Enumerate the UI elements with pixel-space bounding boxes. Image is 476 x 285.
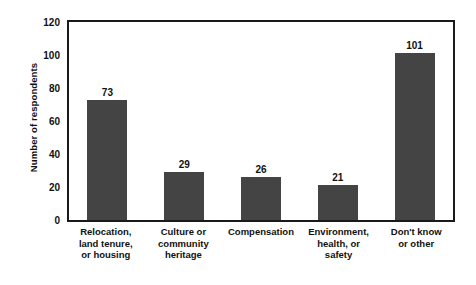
y-axis-tick-label: 20	[18, 182, 60, 193]
bars-group: 73292621101	[69, 22, 453, 220]
bar	[318, 185, 358, 220]
bar-value-label: 29	[179, 159, 190, 170]
bar	[241, 177, 281, 220]
x-axis-category-line: community	[145, 238, 223, 250]
bar-value-label: 73	[102, 87, 113, 98]
bar-slot: 101	[376, 22, 453, 220]
x-axis-category-label: Compensation	[222, 226, 300, 238]
bar-slot: 73	[69, 22, 146, 220]
x-axis-category-line: Culture or	[145, 226, 223, 238]
y-axis-tick-label: 80	[18, 83, 60, 94]
bar-value-label: 101	[406, 40, 423, 51]
y-axis-tick-label: 0	[18, 215, 60, 226]
x-axis-category-label: Relocation,land tenure,or housing	[67, 226, 145, 261]
x-axis-category-label: Don't knowor other	[377, 226, 455, 249]
y-axis-tick-label: 40	[18, 149, 60, 160]
bar	[164, 172, 204, 220]
x-axis-category-line: Environment,	[300, 226, 378, 238]
y-axis-tick-label: 100	[18, 50, 60, 61]
bar-chart: Number of respondents 020406080100120 73…	[0, 0, 476, 285]
bar	[395, 53, 435, 220]
bar	[87, 100, 127, 220]
x-axis-category-line: Compensation	[222, 226, 300, 238]
bar-value-label: 21	[332, 172, 343, 183]
x-axis-category-line: or housing	[67, 249, 145, 261]
bar-value-label: 26	[255, 164, 266, 175]
bar-slot: 21	[299, 22, 376, 220]
bar-slot: 29	[146, 22, 223, 220]
x-axis-category-line: Relocation,	[67, 226, 145, 238]
x-axis-category-line: Don't know	[377, 226, 455, 238]
x-axis-category-line: heritage	[145, 249, 223, 261]
x-axis-category-line: health, or	[300, 238, 378, 250]
y-axis-tick-label: 120	[18, 17, 60, 28]
x-axis-category-line: safety	[300, 249, 378, 261]
x-axis-category-line: land tenure,	[67, 238, 145, 250]
x-axis-labels: Relocation,land tenure,or housingCulture…	[67, 226, 455, 282]
y-axis-tick-label: 60	[18, 116, 60, 127]
x-axis-category-label: Environment,health, orsafety	[300, 226, 378, 261]
bar-slot: 26	[223, 22, 300, 220]
x-axis-category-line: or other	[377, 238, 455, 250]
x-axis-category-label: Culture orcommunityheritage	[145, 226, 223, 261]
